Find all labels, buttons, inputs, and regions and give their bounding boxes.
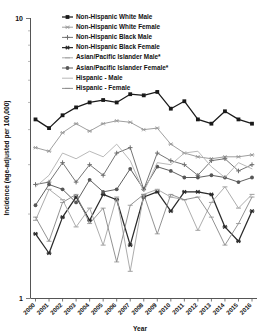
legend-label: Non-Hispanic White Male bbox=[76, 13, 153, 21]
x-tick-label: 2001 bbox=[35, 301, 50, 316]
x-tick-label: 2000 bbox=[22, 301, 37, 316]
legend-label: Non-Hispanic Black Male bbox=[76, 33, 152, 41]
x-tick-label: 2006 bbox=[103, 301, 118, 316]
series-2 bbox=[33, 145, 254, 191]
series-4 bbox=[33, 187, 255, 271]
legend-label: Hispanic - Male bbox=[76, 74, 123, 82]
x-tick-label: 2004 bbox=[76, 301, 91, 316]
x-tick-label: 2008 bbox=[130, 301, 145, 316]
chart-legend: Non-Hispanic White MaleNon-Hispanic Whit… bbox=[62, 13, 169, 92]
x-axis-title: Year bbox=[133, 325, 147, 332]
legend-item-0: Non-Hispanic White Male bbox=[62, 13, 153, 21]
x-tick-label: 2012 bbox=[184, 301, 199, 316]
x-tick-label: 2005 bbox=[89, 301, 104, 316]
y-tick-label-1: 1 bbox=[19, 295, 23, 302]
legend-item-3: Non-Hispanic Black Female bbox=[62, 43, 160, 51]
legend-label: Hispanic - Female bbox=[76, 84, 131, 92]
x-tick-label: 2007 bbox=[116, 301, 131, 316]
legend-label: Asian/Pacific Islander Male* bbox=[76, 53, 161, 60]
y-tick-label-10: 10 bbox=[15, 15, 23, 22]
y-axis-title: Incidence (age-adjusted per 100,000) bbox=[3, 100, 11, 215]
x-tick-label: 2002 bbox=[49, 301, 64, 316]
legend-item-1: Non-Hispanic White Female bbox=[62, 23, 161, 31]
x-tick-label: 2003 bbox=[62, 301, 77, 316]
x-tick-label: 2015 bbox=[224, 301, 239, 316]
legend-item-2: Non-Hispanic Black Male bbox=[62, 33, 152, 41]
incidence-line-chart: 10 1 Incidence (age-adjusted per 100,000… bbox=[0, 0, 263, 336]
series-5 bbox=[34, 165, 254, 207]
legend-item-6: Hispanic - Male bbox=[62, 74, 123, 82]
legend-label: Asian/Pacific Islander Female* bbox=[76, 64, 169, 71]
x-tick-label: 2016 bbox=[238, 301, 253, 316]
legend-item-4: Asian/Pacific Islander Male* bbox=[62, 53, 161, 60]
x-tick-label: 2010 bbox=[157, 301, 172, 316]
chart-series-group bbox=[33, 90, 255, 271]
x-tick-label: 2014 bbox=[211, 301, 226, 316]
chart-canvas: 10 1 Incidence (age-adjusted per 100,000… bbox=[0, 0, 263, 336]
series-6 bbox=[36, 144, 253, 192]
x-tick-label: 2011 bbox=[171, 301, 186, 316]
legend-item-5: Asian/Pacific Islander Female* bbox=[62, 64, 169, 71]
legend-label: Non-Hispanic White Female bbox=[76, 23, 161, 31]
x-tick-label: 2009 bbox=[143, 301, 158, 316]
x-tick-label: 2013 bbox=[197, 301, 212, 316]
legend-label: Non-Hispanic Black Female bbox=[76, 43, 160, 51]
series-0 bbox=[34, 90, 254, 130]
series-7 bbox=[33, 194, 255, 262]
x-axis-tick-labels: 2000200120022003200420052006200720082009… bbox=[22, 301, 254, 316]
legend-item-7: Hispanic - Female bbox=[62, 84, 131, 92]
